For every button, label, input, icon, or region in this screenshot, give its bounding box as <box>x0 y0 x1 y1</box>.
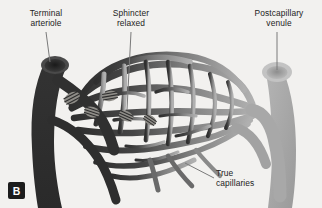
label-postcapillary-venule: Postcapillary venule <box>238 8 320 28</box>
label-true-capillaries: True capillaries <box>216 168 290 188</box>
microcirculation-figure: Terminal arteriole Sphincter relaxed Pos… <box>0 0 322 208</box>
panel-label-badge: B <box>8 182 25 199</box>
label-sphincter-relaxed: Sphincter relaxed <box>92 8 170 28</box>
label-terminal-arteriole: Terminal arteriole <box>8 8 84 28</box>
